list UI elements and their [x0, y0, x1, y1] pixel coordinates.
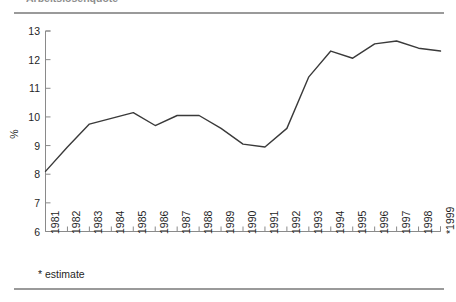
x-axis-tick-label: 1983 [93, 211, 103, 234]
y-axis-tick-label: 7 [18, 198, 40, 208]
y-axis-tick-label: 11 [18, 83, 40, 93]
y-axis-title: % [8, 129, 20, 138]
x-axis-tick-label: 1989 [225, 211, 235, 234]
x-axis-tick-label: 1995 [357, 211, 367, 234]
x-axis-tick-label: 1982 [71, 211, 81, 234]
y-axis-tickmarks [46, 31, 51, 232]
x-axis-tick-label: 1992 [291, 211, 301, 234]
x-axis-tick-label: 1996 [379, 211, 389, 234]
x-axis-tick-label: 1985 [137, 211, 147, 234]
x-axis-tick-label: 1984 [115, 211, 125, 234]
y-axis-tick-label: 10 [18, 112, 40, 122]
x-axis-tick-label: 1987 [181, 211, 191, 234]
x-axis-tick-label: 1988 [203, 211, 213, 234]
y-axis-tick-label: 13 [18, 26, 40, 36]
x-axis-tick-label: 1981 [50, 211, 60, 234]
chart-footnote: * estimate [38, 268, 85, 280]
x-axis-tick-label: 1993 [313, 211, 323, 234]
x-axis-tick-label: 1994 [335, 211, 345, 234]
x-axis-tick-label: 1997 [401, 211, 411, 234]
x-axis-tick-label: 1986 [159, 211, 169, 234]
y-axis-tick-label: 9 [18, 141, 40, 151]
y-axis-tick-label: 12 [18, 55, 40, 65]
x-axis-tick-label: 1998 [423, 211, 433, 234]
data-series-line [46, 41, 441, 171]
axis-spine [46, 31, 441, 232]
x-axis-tick-label: *1999 [445, 207, 455, 234]
x-axis-tick-label: 1991 [269, 211, 279, 234]
y-axis-tick-label: 8 [18, 169, 40, 179]
x-axis-tick-label: 1990 [247, 211, 257, 234]
y-axis-tick-label: 6 [18, 227, 40, 237]
